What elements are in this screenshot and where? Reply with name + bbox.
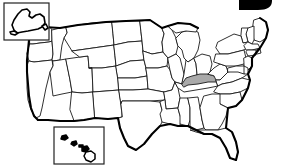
state-idaho[interactable] xyxy=(52,27,67,61)
hawaii-inset-group[interactable] xyxy=(54,127,104,164)
state-texas[interactable] xyxy=(118,101,164,150)
hawaii-island-oahu[interactable] xyxy=(71,141,77,146)
us-map-figure xyxy=(0,0,285,167)
cropped-label-mark xyxy=(239,0,272,10)
state-minnesota[interactable] xyxy=(140,20,164,54)
state-mississippi[interactable] xyxy=(178,98,190,126)
state-arizona[interactable] xyxy=(70,92,95,121)
alaska-inset-group[interactable] xyxy=(4,3,49,40)
state-oregon[interactable] xyxy=(27,41,53,62)
state-florida[interactable] xyxy=(190,128,238,160)
hawaii-island-kauai[interactable] xyxy=(61,135,68,140)
state-kansas[interactable] xyxy=(118,76,148,90)
hawaii-island-big-island[interactable] xyxy=(84,151,95,162)
cropped-label-mark-group xyxy=(239,0,272,10)
us-map-svg xyxy=(0,0,285,167)
state-colorado[interactable] xyxy=(89,66,119,92)
state-new-mexico[interactable] xyxy=(93,90,122,119)
alaska-aleutian-chain xyxy=(10,31,18,35)
